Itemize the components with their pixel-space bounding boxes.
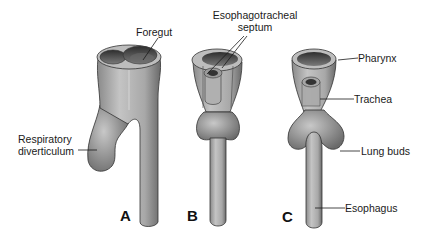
label-respiratory-line1: Respiratory	[18, 133, 74, 145]
panel-c-drawing	[288, 49, 344, 228]
label-esophagotracheal-septum: Esophagotracheal septum	[200, 9, 310, 33]
embryology-figure: Foregut Esophagotracheal septum Respirat…	[0, 0, 428, 236]
label-septum-line2: septum	[200, 21, 310, 33]
label-respiratory-line2: diverticulum	[18, 145, 74, 157]
label-foregut: Foregut	[136, 26, 172, 38]
label-trachea: Trachea	[354, 93, 392, 105]
panel-label-c: C	[282, 208, 293, 225]
panel-a-drawing	[88, 45, 161, 227]
panel-label-a: A	[120, 207, 131, 224]
panel-label-b: B	[187, 207, 198, 224]
label-septum-line1: Esophagotracheal	[200, 9, 310, 21]
label-lung-buds: Lung buds	[361, 145, 410, 157]
panel-b-drawing	[192, 49, 242, 226]
foregut-development-illustration	[0, 0, 428, 236]
label-respiratory-diverticulum: Respiratory diverticulum	[18, 133, 74, 157]
label-esophagus: Esophagus	[345, 202, 398, 214]
label-pharynx: Pharynx	[358, 52, 397, 64]
